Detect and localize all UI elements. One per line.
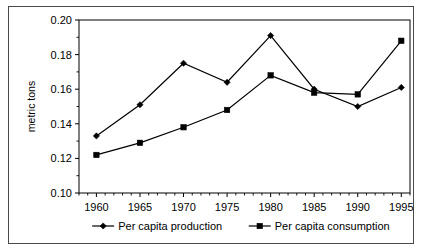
x-tick-label: 1960 <box>84 201 108 213</box>
series-1 <box>93 32 404 139</box>
x-tick-label: 1990 <box>345 201 369 213</box>
x-tick-label: 1965 <box>128 201 152 213</box>
data-point-square <box>355 92 360 97</box>
y-tick-label: 0.18 <box>51 49 72 61</box>
x-tick-label: 1995 <box>389 201 413 213</box>
series-line <box>96 41 401 155</box>
y-tick-label: 0.10 <box>51 187 72 199</box>
data-point-square <box>94 152 99 157</box>
data-point-diamond <box>355 103 361 109</box>
y-axis-title: metric tons <box>25 81 37 132</box>
series-2 <box>94 38 404 158</box>
legend-label: Per capita production <box>118 220 222 232</box>
x-tick-label: 1980 <box>258 201 282 213</box>
data-point-square <box>181 125 186 130</box>
data-point-square <box>137 140 142 145</box>
y-tick-label: 0.16 <box>51 83 72 95</box>
legend-item-2[interactable]: Per capita consumption <box>249 220 390 232</box>
data-point-square <box>268 73 273 78</box>
series-line <box>96 36 401 136</box>
data-point-diamond <box>100 223 106 229</box>
data-point-square <box>311 90 316 95</box>
x-tick-label: 1975 <box>215 201 239 213</box>
legend-label: Per capita consumption <box>275 220 390 232</box>
y-tick-label: 0.20 <box>51 14 72 26</box>
y-tick-label: 0.14 <box>51 118 72 130</box>
data-point-square <box>257 223 262 228</box>
data-point-diamond <box>398 84 404 90</box>
data-point-square <box>399 38 404 43</box>
figure-container: 0.200.180.160.140.120.101960196519701975… <box>8 6 414 244</box>
x-tick-label: 1970 <box>171 201 195 213</box>
y-tick-label: 0.12 <box>51 152 72 164</box>
legend-item-1[interactable]: Per capita production <box>92 220 222 232</box>
data-point-square <box>224 107 229 112</box>
x-tick-label: 1985 <box>302 201 326 213</box>
line-chart: 0.200.180.160.140.120.101960196519701975… <box>9 7 415 245</box>
chart-area: 0.200.180.160.140.120.101960196519701975… <box>9 7 415 245</box>
